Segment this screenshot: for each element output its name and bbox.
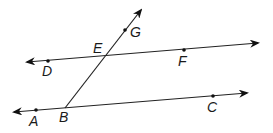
geometry-diagram: D E F G A B C	[0, 0, 273, 133]
label-d: D	[42, 63, 52, 79]
label-a: A	[28, 113, 38, 129]
point-c	[211, 94, 215, 98]
label-g: G	[130, 24, 141, 40]
point-f	[182, 48, 186, 52]
line-df	[27, 43, 258, 62]
point-g	[123, 28, 127, 32]
label-b: B	[59, 109, 68, 125]
label-f: F	[178, 53, 188, 69]
point-a	[34, 108, 38, 112]
label-e: E	[93, 40, 103, 56]
label-c: C	[207, 99, 218, 115]
